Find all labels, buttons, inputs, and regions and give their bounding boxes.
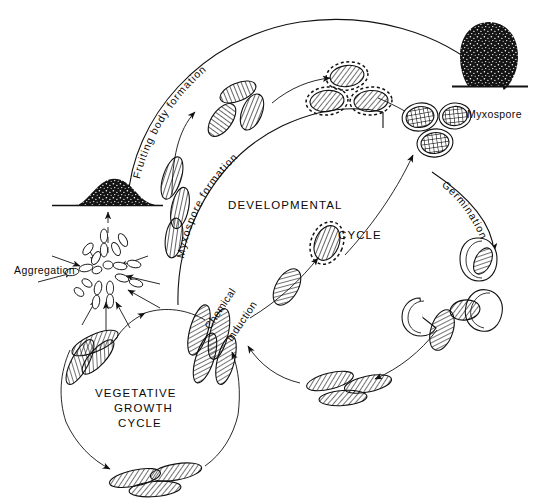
germinating-myxospore-upper	[460, 238, 497, 281]
label-developmental-cycle: CYCLE	[338, 229, 382, 241]
mature-myxospore-cluster	[400, 100, 472, 159]
chemically-induced-cell	[304, 217, 350, 270]
label-developmental: DEVELOPMENTAL	[228, 199, 342, 211]
aggregate-mound-icon	[52, 179, 163, 206]
fruiting-body-icon	[452, 22, 528, 90]
aggregation-starburst	[65, 229, 144, 310]
vegetative-rod-cluster-bottom	[108, 460, 203, 499]
induction-input-cell	[267, 264, 306, 310]
shortened-rod-cluster	[203, 77, 269, 142]
label-vegetative-cycle: CYCLE	[118, 417, 162, 429]
label-myxospore: Myxospore	[467, 108, 522, 120]
diagram-canvas: Fruiting body formation Myxospore format…	[0, 0, 541, 499]
label-growth: GROWTH	[114, 402, 173, 414]
vegetative-rod-cluster-upper-left	[61, 325, 122, 388]
label-aggregation: Aggregation	[14, 264, 75, 276]
label-germination: Germination	[440, 178, 490, 241]
label-vegetative: VEGETATIVE	[95, 387, 177, 399]
life-cycle-diagram: Fruiting body formation Myxospore format…	[0, 0, 541, 499]
germinating-myxospore-lower	[449, 290, 503, 332]
vegetative-rod-cluster-lower-right	[305, 367, 393, 407]
label-fruiting-body-formation: Fruiting body formation	[130, 62, 208, 179]
